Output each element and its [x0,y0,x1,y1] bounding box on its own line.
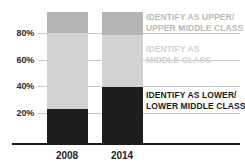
x-axis-tick-2014: 2014 [92,150,152,161]
legend-label-upper-class-line2: UPPER MIDDLE CLASS [146,23,243,34]
legend-label-middle-class-line1: IDENTIFY AS [146,44,211,55]
bar-2008-segment-lower [47,109,88,143]
bar-2014-segment-upper [102,12,143,35]
legend-label-upper-class: IDENTIFY AS UPPER/ UPPER MIDDLE CLASS [146,12,243,33]
bar-2014-segment-lower [102,87,143,143]
bar-2008-segment-upper [47,12,88,33]
legend-label-middle-class-line2: MIDDLE CLASS [146,55,211,66]
x-axis-line [12,143,240,145]
legend-label-lower-class-line2: LOWER MIDDLE CLASS [146,101,245,112]
legend-label-middle-class: IDENTIFY AS MIDDLE CLASS [146,44,211,65]
y-axis-tick-80: 80% [4,29,34,38]
legend-label-upper-class-line1: IDENTIFY AS UPPER/ [146,12,243,23]
y-axis-tick-40: 40% [4,82,34,91]
legend-label-lower-class-line1: IDENTIFY AS LOWER/ [146,90,245,101]
bar-2008-segment-middle [47,33,88,109]
bar-2014-segment-middle [102,35,143,87]
bar-2014 [102,0,143,143]
stacked-bar-chart: 80% 60% 40% 20% 2008 2014 IDENTIFY AS UP… [0,0,245,168]
x-axis-tick-2008: 2008 [37,150,97,161]
y-axis-tick-20: 20% [4,109,34,118]
legend-label-lower-class: IDENTIFY AS LOWER/ LOWER MIDDLE CLASS [146,90,245,111]
y-axis-tick-60: 60% [4,56,34,65]
bar-2008 [47,0,88,143]
